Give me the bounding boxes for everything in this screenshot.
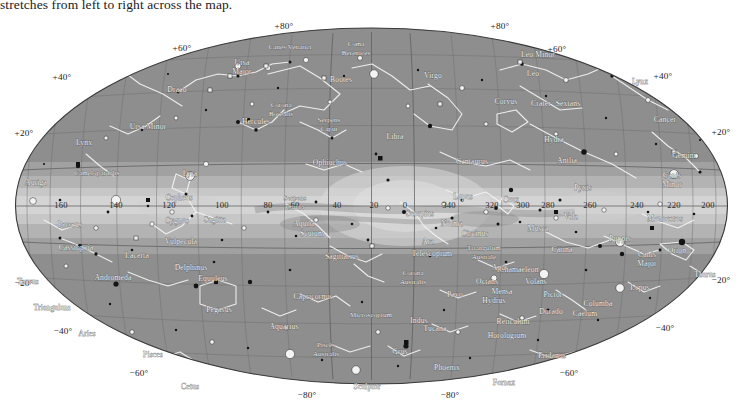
lat-label: +40° bbox=[53, 72, 72, 82]
constellation-label: Pyxis bbox=[574, 183, 592, 192]
constellation-label: Octans bbox=[476, 277, 498, 286]
constellation-label: Hercules bbox=[242, 117, 270, 126]
lat-label: +80° bbox=[491, 21, 510, 31]
lon-tick: 220 bbox=[667, 200, 681, 210]
constellation-label: Camelopardalis bbox=[74, 169, 120, 176]
constellation-label: Cassiopeia bbox=[59, 243, 94, 252]
lon-tick: 260 bbox=[583, 200, 597, 210]
constellation-label: Hydra bbox=[544, 135, 564, 144]
constellation-label: Puppis bbox=[609, 234, 631, 243]
lon-tick: 80 bbox=[264, 200, 273, 210]
constellation-label: Pisces bbox=[143, 350, 163, 359]
lat-label: −40° bbox=[656, 323, 675, 333]
lat-label: +80° bbox=[275, 21, 294, 31]
constellation-label: Lynx bbox=[632, 77, 648, 86]
constellation-label: Sagittarius bbox=[325, 252, 359, 261]
constellation-label: Pegasus bbox=[206, 305, 232, 314]
constellation-label: Libra bbox=[386, 132, 404, 141]
lat-label: +60° bbox=[173, 43, 192, 53]
constellation-label: Columba bbox=[584, 299, 613, 308]
constellation-label: Gemini bbox=[672, 151, 696, 160]
lon-tick: 340 bbox=[442, 200, 456, 210]
constellation-label: Carina bbox=[551, 245, 573, 254]
lat-label: +20° bbox=[15, 128, 34, 138]
lon-tick: 100 bbox=[215, 200, 229, 210]
constellation-label: Caelum bbox=[573, 309, 598, 318]
constellation-label: Virgo bbox=[424, 71, 442, 80]
constellation-label: Ara bbox=[422, 237, 434, 246]
star-map-svg: 160 140 120 100 80 60 40 20 0 340 320 30… bbox=[0, 14, 743, 407]
constellation-label: Musca bbox=[528, 224, 549, 233]
constellation-label: Antlia bbox=[557, 156, 577, 165]
constellation-label: Draco bbox=[167, 85, 186, 94]
constellation-label: Scutum bbox=[300, 229, 324, 238]
constellation-label: Bootes bbox=[330, 75, 352, 84]
constellation-label: Lacerta bbox=[125, 251, 149, 260]
constellation-label: SerpensCauda bbox=[284, 194, 307, 210]
lat-label: −60° bbox=[130, 368, 149, 378]
constellation-label: Cepheus bbox=[165, 193, 192, 202]
constellation-label: Hydrus bbox=[482, 296, 505, 305]
constellation-label: Canes Venatici bbox=[268, 43, 311, 50]
constellation-label: Leo Minor bbox=[521, 50, 555, 59]
constellation-label: Horologium bbox=[488, 331, 527, 340]
lon-tick: 140 bbox=[109, 200, 123, 210]
constellation-label: Eridanus bbox=[538, 351, 566, 360]
constellation-label: Lupus bbox=[453, 192, 473, 201]
constellation-label: Equuleus bbox=[198, 274, 227, 283]
lat-label: +20° bbox=[712, 127, 731, 137]
constellation-label: Grus bbox=[392, 347, 407, 356]
constellation-label: Volans bbox=[525, 277, 546, 286]
constellation-label: Sagitta bbox=[204, 215, 227, 224]
constellation-label: CanisMinor bbox=[662, 171, 682, 189]
constellation-label: Vela bbox=[564, 212, 579, 221]
constellation-label: Chamaeleon bbox=[499, 265, 539, 274]
constellation-label: Lynx bbox=[76, 138, 92, 147]
constellation-label: TriangulumAustrale bbox=[467, 244, 501, 260]
constellation-label: Vulpecula bbox=[165, 237, 198, 246]
constellation-label: UrsaMajor bbox=[232, 58, 252, 76]
constellation-label: Andromeda bbox=[94, 273, 132, 282]
constellation-label: Crux bbox=[503, 195, 519, 204]
constellation-label: Tucana bbox=[424, 324, 447, 333]
constellation-label: Orion bbox=[668, 246, 687, 255]
constellation-label: Reticulum bbox=[497, 317, 530, 326]
constellation-label: Aquila bbox=[293, 219, 315, 228]
map-body bbox=[0, 14, 743, 407]
constellation-label: Aries bbox=[78, 329, 95, 338]
lon-tick: 40 bbox=[333, 200, 342, 210]
constellation-label: Monoceros bbox=[647, 214, 683, 223]
constellation-label: CoronaAustralis bbox=[400, 269, 426, 285]
lat-label: −40° bbox=[54, 326, 73, 336]
lon-tick: 320 bbox=[485, 200, 499, 210]
page-caption: stretches from left to right across the … bbox=[0, 0, 743, 15]
constellation-label: Auriga bbox=[25, 178, 47, 187]
constellation-label: Capricornus bbox=[294, 292, 333, 301]
lat-label: −60° bbox=[560, 368, 579, 378]
constellation-label: Mensa bbox=[492, 287, 513, 296]
constellation-label: Perseus bbox=[58, 220, 82, 229]
constellation-label: SerpensCaput bbox=[318, 116, 341, 132]
lat-label: +40° bbox=[654, 71, 673, 81]
lon-tick: 240 bbox=[630, 200, 644, 210]
constellation-label: Circinus bbox=[462, 229, 489, 238]
constellation-label: Taurus bbox=[17, 277, 38, 286]
constellation-label: CoronaBorealis bbox=[269, 101, 293, 117]
star-map-page: stretches from left to right across the … bbox=[0, 0, 743, 407]
constellation-label: Lyra bbox=[183, 169, 198, 178]
constellation-label: Telescopium bbox=[412, 249, 452, 258]
constellation-label: Corvus bbox=[495, 97, 518, 106]
constellation-label: CanisMajor bbox=[637, 250, 657, 268]
constellation-label: Taurus bbox=[694, 270, 715, 279]
constellation-label: Triangulum bbox=[33, 303, 70, 312]
constellation-label: Crater bbox=[531, 99, 551, 108]
constellation-label: Leo bbox=[527, 69, 539, 78]
constellation-label: Scorpius bbox=[406, 209, 434, 218]
constellation-label: Cetus bbox=[181, 382, 199, 391]
constellation-label: Pavo bbox=[447, 290, 463, 299]
lon-tick: 280 bbox=[541, 200, 555, 210]
constellation-label: Microscopium bbox=[350, 311, 392, 318]
constellation-label: Pictor bbox=[543, 290, 562, 299]
lon-tick: 20 bbox=[370, 200, 379, 210]
constellation-label: Sculptor bbox=[354, 382, 381, 391]
